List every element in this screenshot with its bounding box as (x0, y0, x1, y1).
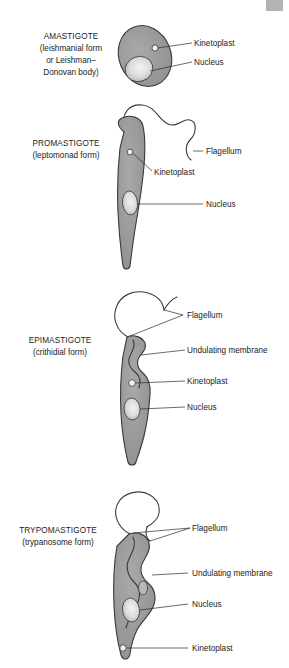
promastigote-kinetoplast-label: Kinetoplast (154, 168, 195, 177)
epimastigote-flagellum-leader-b (164, 310, 183, 315)
epimastigote-flagellum-label: Flagellum (187, 311, 223, 320)
stage-amastigote-name: AMASTIGOTE (44, 32, 99, 41)
parasite-morphology-diagram: AMASTIGOTE (leishmanial form or Leishman… (0, 0, 289, 668)
epimastigote-kinetoplast (129, 380, 136, 387)
trypomastigote-cell-body (114, 533, 155, 659)
stage-promastigote-subtitle-line-1: (leptomonad form) (33, 151, 100, 160)
promastigote-flagellum-label: Flagellum (206, 147, 242, 156)
trypomastigote-flagellum-label: Flagellum (192, 524, 228, 533)
trypomastigote-flagellum-loop (116, 492, 160, 534)
epimastigote-undulating-membrane-leader (141, 350, 185, 355)
trypomastigote-nucleus-label: Nucleus (192, 600, 222, 609)
stage-trypomastigote: TRYPOMASTIGOTE (trypanosome form) Flagel… (19, 492, 273, 659)
stage-amastigote-subtitle-line-3: Donovan body) (43, 68, 99, 77)
epimastigote-flagellum-loop (115, 292, 164, 337)
promastigote-kinetoplast (127, 149, 133, 155)
epimastigote-nucleus-label: Nucleus (187, 403, 217, 412)
epimastigote-flagellum-free-tip (164, 297, 177, 310)
stage-epimastigote: EPIMASTIGOTE (crithidial form) Flagellum… (29, 292, 268, 465)
trypomastigote-undulating-membrane-leader (152, 573, 188, 575)
stage-amastigote-subtitle-line-1: (leishmanial form (40, 44, 103, 53)
stage-trypomastigote-name: TRYPOMASTIGOTE (19, 526, 97, 535)
amastigote-cell-body (109, 18, 180, 95)
epimastigote-kinetoplast-label: Kinetoplast (187, 377, 228, 386)
amastigote-kinetoplast (152, 45, 158, 51)
stage-amastigote-subtitle-line-2: or Leishman– (46, 56, 96, 65)
stage-epimastigote-name: EPIMASTIGOTE (29, 336, 92, 345)
promastigote-nucleus-label: Nucleus (206, 200, 236, 209)
trypomastigote-kinetoplast (120, 645, 126, 651)
stage-promastigote-name: PROMASTIGOTE (32, 139, 100, 148)
stage-epimastigote-subtitle-line-1: (crithidial form) (33, 348, 87, 357)
amastigote-kinetoplast-label: Kinetoplast (194, 39, 235, 48)
amastigote-nucleus-label: Nucleus (194, 58, 224, 67)
epimastigote-flagellum-leader-a (130, 315, 183, 336)
epimastigote-undulating-membrane-label: Undulating membrane (187, 346, 268, 355)
stage-amastigote: AMASTIGOTE (leishmanial form or Leishman… (40, 18, 235, 95)
stage-trypomastigote-subtitle-line-1: (trypanosome form) (22, 538, 94, 547)
trypomastigote-undulating-membrane-label: Undulating membrane (192, 569, 273, 578)
trypomastigote-membrane-organelle (139, 581, 148, 595)
trypomastigote-kinetoplast-label: Kinetoplast (192, 644, 233, 653)
stage-promastigote: PROMASTIGOTE (leptomonad form) Flagellum… (32, 105, 241, 269)
